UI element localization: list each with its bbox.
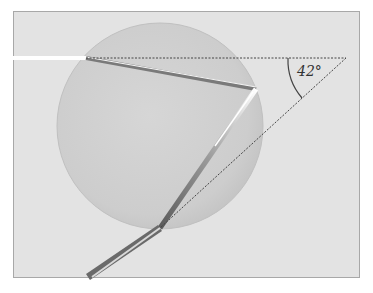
angle-label: 42°	[297, 63, 322, 79]
raindrop-diagram	[0, 0, 373, 293]
